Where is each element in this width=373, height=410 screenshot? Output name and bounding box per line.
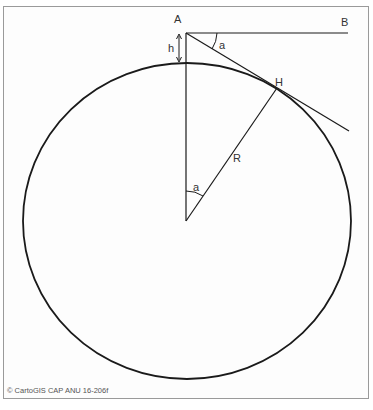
angle-arc-top — [212, 33, 217, 49]
label-angle-center: a — [193, 181, 200, 193]
label-radius: R — [233, 152, 241, 164]
height-arrow-icon — [177, 34, 182, 62]
copyright-credit: © CartoGIS CAP ANU 16-206f — [7, 386, 108, 395]
label-b-point: B — [341, 16, 348, 28]
earth-circle — [23, 63, 351, 379]
radius-line — [186, 88, 277, 221]
label-angle-top: a — [219, 39, 226, 51]
label-h-point: H — [275, 76, 283, 88]
label-height: h — [168, 42, 174, 54]
label-a-point: A — [174, 13, 182, 25]
tangent-line-a-through-h — [186, 33, 349, 131]
earth-horizon-diagram: A B H R h a a — [0, 0, 373, 410]
